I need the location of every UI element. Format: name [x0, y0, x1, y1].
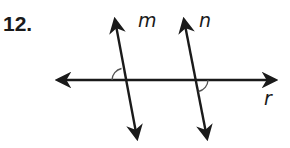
- label-n: n: [199, 9, 211, 31]
- label-r: r: [264, 87, 273, 109]
- label-m: m: [138, 9, 157, 31]
- angle-mark-m-r: [112, 69, 122, 81]
- parallel-lines-diagram: m n r: [0, 0, 290, 148]
- angle-mark-n-r: [199, 80, 209, 92]
